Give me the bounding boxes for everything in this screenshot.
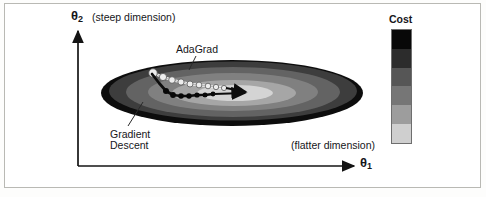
x-axis-note: (flatter dimension) (291, 140, 375, 151)
adagrad-point (159, 73, 166, 80)
colorbar-band-mid (392, 86, 411, 105)
adagrad-point (196, 82, 202, 88)
gd-point (163, 88, 169, 94)
gd-point (203, 93, 208, 98)
colorbar-band-high (392, 49, 411, 68)
colorbar-band-mid-high (392, 68, 411, 87)
contour-plot (0, 0, 486, 197)
y-axis-note: (steep dimension) (92, 12, 175, 23)
adagrad-annotation-label: AdaGrad (176, 44, 218, 55)
cost-colorbar (391, 29, 412, 144)
adagrad-point (205, 83, 211, 89)
figure-container: θ2 (steep dimension) θ1 (flatter dimensi… (0, 0, 486, 197)
gd-label-line2: Descent (110, 140, 150, 151)
gd-point (170, 92, 176, 98)
gradient-descent-arrow (214, 93, 245, 94)
colorbar-band-low (392, 124, 411, 143)
adagrad-point (213, 84, 218, 89)
adagrad-point (221, 85, 226, 90)
gd-point (186, 93, 191, 98)
y-axis-symbol: θ2 (71, 9, 83, 25)
adagrad-point (187, 81, 193, 87)
adagrad-point (178, 79, 184, 85)
colorbar-band-highest (392, 30, 411, 49)
adagrad-point (169, 77, 176, 84)
x-axis-symbol: θ1 (360, 156, 372, 172)
gd-point (194, 92, 199, 97)
legend-title: Cost (389, 14, 412, 25)
colorbar-band-mid-low (392, 105, 411, 124)
gradient-descent-annotation-label: Gradient Descent (110, 129, 150, 152)
gd-point (178, 93, 184, 99)
